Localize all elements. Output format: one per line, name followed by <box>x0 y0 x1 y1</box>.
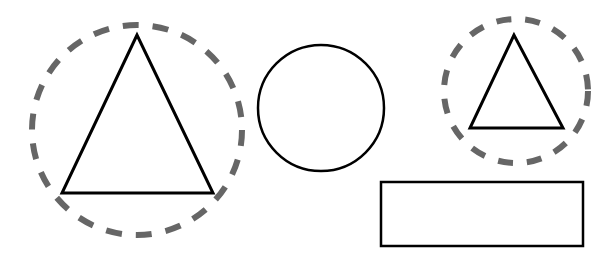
rectangle <box>381 182 583 246</box>
small-triangle <box>470 35 563 128</box>
large-triangle <box>62 35 213 193</box>
shapes-diagram <box>0 0 606 261</box>
large-dashed-circle <box>32 25 242 235</box>
solid-circle <box>258 45 384 171</box>
